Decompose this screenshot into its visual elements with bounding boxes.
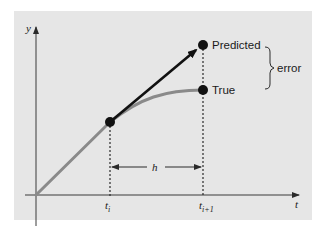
predicted-point xyxy=(198,40,208,50)
euler-error-diagram: y t Predicted True error h ti ti+1 xyxy=(0,0,322,231)
true-point xyxy=(198,85,208,95)
plot-panel xyxy=(14,11,312,220)
y-axis-label: y xyxy=(25,22,31,34)
error-label: error xyxy=(277,62,301,74)
tick-t-i-sub: i xyxy=(108,205,110,214)
true-label: True xyxy=(212,84,235,96)
start-point xyxy=(105,117,115,127)
tick-t-i-plus-1-sub: i+1 xyxy=(202,205,214,214)
step-size-label: h xyxy=(152,161,158,173)
predicted-label: Predicted xyxy=(212,39,261,51)
